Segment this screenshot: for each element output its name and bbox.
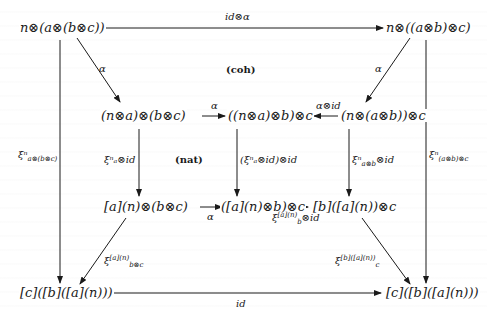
node-mid-left: (n⊗a)⊗(b⊗c) [100, 109, 187, 122]
node-top-right: n⊗((a⊗b)⊗c) [385, 21, 472, 34]
label-inner-center: (ξⁿₐ⊗id)⊗id [240, 155, 297, 165]
label-diag-bottom-right-sub: c [376, 261, 380, 269]
label-outer-right-xi: ξⁿ [429, 149, 439, 160]
arrow-diag-bottom-right [362, 218, 410, 284]
label-diag-top-right: α [375, 64, 382, 74]
label-inner-right-xi: ξⁿ [352, 154, 362, 165]
node-low-right: [b]([a](n))⊗c [312, 200, 397, 213]
node-bottom-right: [c]([b]([a](n))) [385, 286, 480, 299]
label-diag-bottom-left: ξ[a](n)b⊗c [104, 255, 143, 269]
node-low-left: [a](n)⊗(b⊗c) [103, 200, 189, 213]
label-inner-right-sub: a⊗b [362, 160, 377, 168]
label-low-center-right-tail: ⊗id [302, 212, 320, 223]
label-inner-left: ξⁿₐ⊗id [104, 155, 135, 165]
label-inner-right: ξⁿa⊗b⊗id [352, 155, 394, 168]
label-diag-bottom-left-sub: b⊗c [129, 261, 143, 269]
label-top: id⊗α [225, 12, 250, 22]
label-inner-right-tail: ⊗id [376, 154, 394, 165]
node-mid-right: (n⊗(a⊗b))⊗c [340, 109, 427, 122]
node-bottom-left: [c]([b]([a](n))) [19, 286, 114, 299]
label-outer-left: ξⁿa⊗(b⊗c) [18, 150, 57, 163]
label-outer-left-sub: a⊗(b⊗c) [28, 155, 58, 163]
arrow-diag-bottom-left [80, 218, 126, 284]
label-outer-left-xi: ξⁿ [18, 149, 28, 160]
region-nat: (nat) [175, 155, 203, 165]
label-low-center-right: ξ[a](n)b⊗id [272, 212, 320, 226]
label-mid-left-center: α [211, 101, 218, 111]
label-mid-right-center: α⊗id [316, 101, 341, 111]
label-outer-right: ξⁿ(a⊗b)⊗c [429, 150, 468, 163]
label-low-center-right-sup: [a](n) [278, 211, 298, 219]
label-diag-top-left: α [99, 64, 106, 74]
arrow-diag-top-right [366, 38, 410, 102]
label-low-left-center: α [207, 212, 214, 222]
node-top-left: n⊗(a⊗(b⊗c)) [19, 21, 106, 34]
label-diag-bottom-left-sup: [a](n) [110, 254, 130, 262]
region-coh: (coh) [226, 65, 256, 75]
label-diag-bottom-right: ξ[b]([a](n))c [335, 255, 379, 269]
label-bottom: id [236, 299, 246, 309]
label-diag-bottom-right-sup: [b]([a](n)) [341, 254, 376, 262]
label-outer-right-sub: (a⊗b)⊗c [439, 155, 469, 163]
node-mid-center: ((n⊗a)⊗b)⊗c [227, 109, 314, 122]
